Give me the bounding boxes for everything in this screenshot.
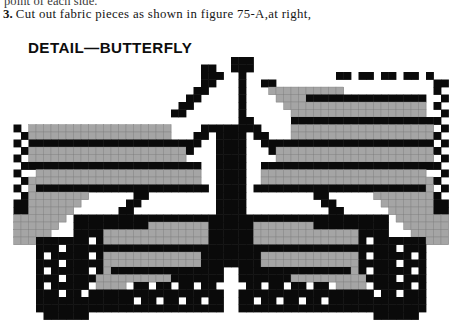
instruction-number: 3.	[3, 7, 13, 21]
instruction-step-3: 3. Cut out fabric pieces as shown in fig…	[3, 6, 423, 22]
detail-heading: DETAIL—BUTTERFLY	[28, 39, 192, 56]
pattern-page: point of each side. 3. Cut out fabric pi…	[0, 0, 453, 331]
instruction-text: Cut out fabric pieces as shown in figure…	[16, 7, 311, 21]
